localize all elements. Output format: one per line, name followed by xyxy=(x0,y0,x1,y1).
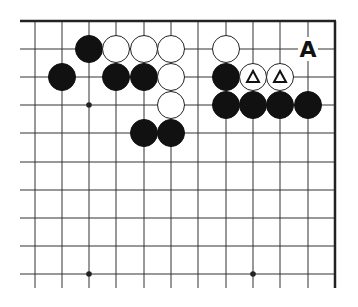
go-board: A xyxy=(0,0,358,307)
black-stone xyxy=(103,64,130,91)
star-point xyxy=(86,271,92,277)
labels-layer: A xyxy=(298,37,318,62)
point-label-a: A xyxy=(299,37,316,62)
white-stone xyxy=(213,36,240,63)
white-stone xyxy=(267,64,294,91)
white-stone xyxy=(158,92,185,119)
black-stone xyxy=(213,64,240,91)
black-stone xyxy=(240,92,267,119)
white-stone xyxy=(240,64,267,91)
white-stone xyxy=(158,36,185,63)
black-stone xyxy=(131,120,158,147)
black-stone xyxy=(267,92,294,119)
black-stone xyxy=(131,64,158,91)
black-stone xyxy=(295,92,322,119)
star-point xyxy=(250,271,256,277)
white-stone xyxy=(158,64,185,91)
black-stone xyxy=(49,64,76,91)
black-stone xyxy=(76,36,103,63)
white-stone xyxy=(103,36,130,63)
white-stone xyxy=(131,36,158,63)
black-stone xyxy=(158,120,185,147)
black-stone xyxy=(213,92,240,119)
star-point xyxy=(86,102,92,108)
